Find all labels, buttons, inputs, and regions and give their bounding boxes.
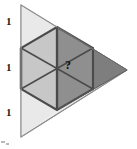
geometry-diagram-svg xyxy=(0,0,137,149)
unknown-area-label: ? xyxy=(65,59,71,71)
hexagon-shaded-overlap xyxy=(57,27,93,110)
dimension-label-middle: 1 xyxy=(6,62,12,73)
scan-speck-1 xyxy=(1,141,5,143)
dimension-label-bottom: 1 xyxy=(6,107,12,118)
scan-speck-2 xyxy=(6,143,9,145)
geometry-figure-container: 1 1 1 ? xyxy=(0,0,137,149)
dimension-label-top: 1 xyxy=(6,16,12,27)
